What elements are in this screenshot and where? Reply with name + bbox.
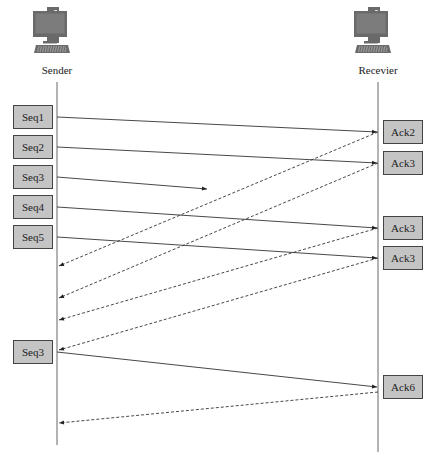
ack-box: Ack6	[383, 375, 423, 399]
data-arrow	[57, 147, 377, 163]
seq-box: Seq5	[13, 225, 53, 249]
ack-box: Ack3	[383, 216, 423, 240]
seq-box: Seq4	[13, 195, 53, 219]
sender-label: Sender	[17, 64, 97, 76]
ack-arrow	[59, 163, 378, 298]
seq-box: Seq1	[13, 105, 53, 129]
message-arrows	[57, 117, 378, 423]
ack-arrow	[59, 132, 378, 266]
ack-arrow	[59, 258, 378, 350]
receiver-label: Recevier	[338, 64, 418, 76]
seq-box: Seq3	[13, 165, 53, 189]
lost-packet-arrow	[57, 177, 207, 189]
ack-box: Ack3	[383, 246, 423, 270]
seq-box-retransmit: Seq3	[13, 340, 53, 364]
ack-box: Ack3	[383, 151, 423, 175]
data-arrow	[57, 207, 377, 228]
computer-icon	[33, 7, 70, 53]
data-arrow	[57, 352, 377, 387]
computer-icon	[354, 7, 391, 53]
seq-box: Seq2	[13, 135, 53, 159]
data-arrow	[57, 237, 377, 258]
ack-arrow	[59, 228, 378, 320]
data-arrow	[57, 117, 377, 132]
ack-arrow	[59, 392, 378, 423]
ack-box: Ack2	[383, 120, 423, 144]
